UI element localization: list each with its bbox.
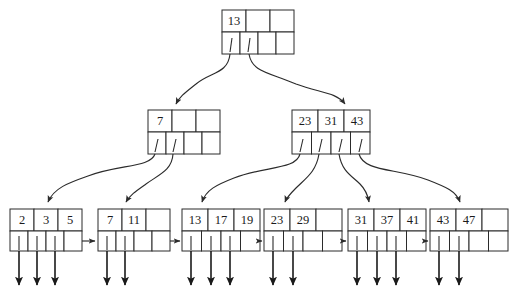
root-key-cell-2 — [270, 10, 294, 32]
edge-internal-right-to-leaf-3 — [202, 154, 300, 202]
leaf-3-pointer-cell-0 — [182, 231, 202, 251]
internal-right-pointer-cell-3 — [351, 132, 371, 154]
leaf-4-pointer-cell-3 — [323, 231, 343, 251]
leaf-1-key-2: 5 — [67, 213, 73, 227]
internal-left-pointer-cell-3 — [202, 132, 220, 154]
leaf-6-pointer-cell-3 — [489, 231, 509, 251]
leaf-1-pointer-cell-3 — [64, 231, 82, 251]
leaf-2-key-0: 7 — [107, 213, 113, 227]
leaf-6-key-1: 47 — [463, 213, 476, 227]
bplus-tree-diagram: 13 7 — [0, 0, 518, 297]
leaf-4-pointer-cell-0 — [264, 231, 284, 251]
leaf-node-4[interactable]: 23 29 — [264, 209, 342, 285]
leaf-1-key-1: 3 — [43, 213, 49, 227]
leaf-6-pointer-cell-0 — [430, 231, 450, 251]
leaf-5-pointer-cell-0 — [348, 231, 368, 251]
edge-internal-right-to-leaf-4 — [285, 154, 319, 202]
leaf-5-pointer-cell-3 — [407, 231, 427, 251]
internal-left-key-cell-1 — [172, 110, 196, 132]
leaf-1-key-0: 2 — [19, 213, 25, 227]
root-key-0: 13 — [228, 14, 241, 28]
leaf-node-5[interactable]: 31 37 41 — [348, 209, 426, 285]
internal-left-pointer-cell-2 — [184, 132, 202, 154]
leaf-6-key-cell-2 — [482, 209, 508, 231]
edge-internal-left-to-leaf-1 — [48, 154, 155, 202]
leaf-2-key-cell-2 — [146, 209, 170, 231]
internal-node-left[interactable]: 7 — [148, 110, 220, 154]
tree-canvas: 13 7 — [0, 0, 518, 297]
root-pointer-cell-3 — [276, 32, 294, 54]
root-node[interactable]: 13 — [222, 10, 294, 54]
leaf-4-pointer-cell-2 — [303, 231, 323, 251]
internal-left-key-0: 7 — [157, 114, 163, 128]
leaf-4-key-cell-2 — [316, 209, 342, 231]
leaf-node-1[interactable]: 2 3 5 — [10, 209, 82, 285]
leaf-2-pointer-cell-2 — [134, 231, 152, 251]
leaf-6-key-0: 43 — [437, 213, 450, 227]
leaf-3-pointer-cell-3 — [241, 231, 261, 251]
internal-right-key-1: 31 — [325, 114, 338, 128]
edge-internal-right-to-leaf-5 — [339, 154, 369, 202]
internal-left-key-cell-2 — [196, 110, 220, 132]
leaf-3-pointer-cell-2 — [221, 231, 241, 251]
internal-node-right[interactable]: 23 31 43 — [292, 110, 370, 154]
leaf-5-pointer-cell-2 — [387, 231, 407, 251]
leaf-6-pointer-cell-2 — [469, 231, 489, 251]
root-pointer-cell-2 — [258, 32, 276, 54]
leaf-3-key-2: 19 — [241, 213, 254, 227]
leaf-2-pointer-cell-3 — [152, 231, 170, 251]
leaf-4-key-1: 29 — [297, 213, 310, 227]
leaf-2-key-1: 11 — [128, 213, 140, 227]
leaf-node-3[interactable]: 13 17 19 — [182, 209, 260, 285]
internal-right-key-0: 23 — [299, 114, 312, 128]
edge-internal-right-to-leaf-6 — [359, 154, 460, 202]
leaf-5-key-1: 37 — [381, 213, 394, 227]
edge-root-to-internal-left — [176, 54, 230, 104]
edge-internal-left-to-leaf-2 — [126, 154, 173, 202]
internal-right-key-2: 43 — [351, 114, 364, 128]
leaf-4-key-0: 23 — [271, 213, 284, 227]
leaf-5-key-2: 41 — [407, 213, 420, 227]
leaf-5-key-0: 31 — [355, 213, 368, 227]
leaf-node-2[interactable]: 7 11 — [98, 209, 170, 285]
edge-root-to-internal-right — [249, 54, 345, 104]
root-key-cell-1 — [246, 10, 270, 32]
leaf-3-key-1: 17 — [215, 213, 228, 227]
leaf-3-key-0: 13 — [189, 213, 202, 227]
leaf-node-6[interactable]: 43 47 — [430, 209, 508, 285]
